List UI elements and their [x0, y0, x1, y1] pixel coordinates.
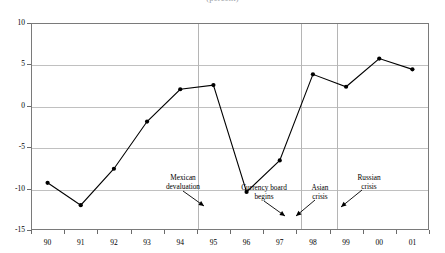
annotation-arrow-russian-crisis — [0, 0, 445, 253]
chart-figure: (percent) 1050-5-10-15909192939495969798… — [0, 0, 445, 253]
